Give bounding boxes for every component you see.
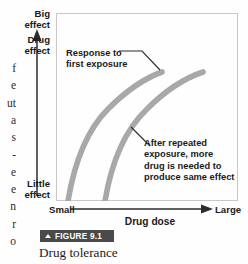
figure-badge-label: FIGURE 9.1	[55, 232, 102, 241]
y-axis-title: Drug effect	[0, 34, 50, 56]
bleed-text-column: f e ut a s - e e n r o	[0, 60, 16, 250]
figure-badge: FIGURE 9.1	[40, 230, 114, 242]
y-axis-bottom-label: Little effect	[2, 178, 50, 200]
x-axis-arrow	[70, 203, 216, 215]
x-axis-right-label: Large	[215, 204, 241, 215]
repeated-exposure-annotation: After repeated exposure, more drug is ne…	[144, 138, 234, 184]
x-axis-left-label: Small	[49, 204, 75, 215]
y-axis-top-label: Big effect	[2, 8, 50, 30]
first-exposure-annotation: Response to first exposure	[66, 48, 127, 71]
chevron-up-icon	[45, 234, 51, 238]
figure-panel: f e ut a s - e e n r o Big effect Drug e…	[0, 0, 248, 264]
x-axis-title: Drug dose	[100, 216, 200, 227]
figure-caption: Drug tolerance	[39, 245, 118, 261]
